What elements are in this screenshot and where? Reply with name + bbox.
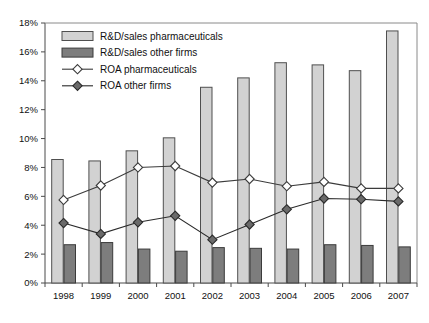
grouped-bar-line-chart: 0%2%4%6%8%10%12%14%16%18% 19981999200020…	[0, 0, 429, 323]
light-bar-swatch	[62, 32, 93, 41]
bar	[89, 161, 101, 283]
bar	[250, 248, 262, 283]
bar	[64, 245, 76, 283]
x-axis-tick-label: 2000	[127, 290, 148, 301]
bar	[287, 249, 299, 283]
x-axis-tick-label: 2002	[202, 290, 223, 301]
legend-label: ROA pharmaceuticals	[100, 64, 197, 75]
x-axis-tick-label: 2005	[313, 290, 334, 301]
y-axis-tick-label: 4%	[24, 220, 38, 231]
legend-item: ROA other firms	[62, 80, 171, 91]
bar	[101, 243, 113, 283]
bar	[399, 247, 411, 283]
x-axis-tick-label: 2006	[351, 290, 372, 301]
legend-label: R&D/sales pharmaceuticals	[100, 31, 223, 42]
bar	[387, 31, 399, 283]
y-axis-tick-label: 6%	[24, 191, 38, 202]
y-axis-tick-label: 12%	[19, 104, 39, 115]
x-axis-tick-label: 2004	[276, 290, 297, 301]
bar	[312, 65, 324, 283]
y-axis-tick-label: 18%	[19, 17, 39, 28]
bar	[163, 138, 175, 283]
x-axis-tick-label: 2007	[388, 290, 409, 301]
legend-label: ROA other firms	[100, 80, 171, 91]
bar	[138, 249, 150, 283]
y-axis-tick-label: 8%	[24, 162, 38, 173]
bar	[349, 71, 361, 283]
bar	[362, 245, 374, 283]
x-axis-tick-label: 2003	[239, 290, 260, 301]
x-axis-tick-label: 1998	[53, 290, 74, 301]
y-axis-tick-label: 14%	[19, 75, 39, 86]
legend-item: R&D/sales pharmaceuticals	[62, 31, 223, 42]
y-axis-tick-label: 0%	[24, 277, 38, 288]
y-axis-tick-label: 10%	[19, 133, 39, 144]
legend-label: R&D/sales other firms	[100, 47, 197, 58]
bar	[275, 63, 287, 283]
legend-item: R&D/sales other firms	[62, 47, 197, 58]
y-axis-tick-label: 16%	[19, 46, 39, 57]
bar	[324, 245, 336, 283]
chart-container: 0%2%4%6%8%10%12%14%16%18% 19981999200020…	[0, 0, 429, 323]
x-axis-tick-label: 1999	[90, 290, 111, 301]
bar	[176, 251, 188, 283]
bar	[213, 248, 225, 283]
x-axis-tick-label: 2001	[165, 290, 186, 301]
dark-bar-swatch	[62, 48, 93, 57]
y-axis-tick-label: 2%	[24, 249, 38, 260]
